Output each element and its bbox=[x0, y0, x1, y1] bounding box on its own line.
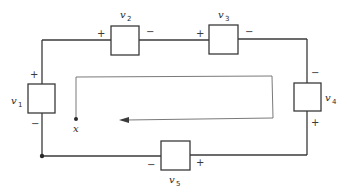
v3-label-sub: 3 bbox=[225, 15, 229, 23]
v5-label-sub: 5 bbox=[176, 180, 180, 188]
arrow-left-icon bbox=[119, 117, 129, 123]
element-box-v1 bbox=[28, 84, 55, 113]
outer-loop-wires bbox=[40, 39, 307, 158]
v4-label-sub: 4 bbox=[332, 98, 337, 106]
traversal-path: x bbox=[73, 76, 273, 134]
element-v2: + − v 2 bbox=[97, 9, 154, 55]
v2-minus-sign: − bbox=[146, 26, 154, 37]
v1-label: v bbox=[11, 95, 17, 106]
v3-minus-sign: − bbox=[245, 26, 253, 37]
v5-label: v bbox=[169, 174, 175, 185]
element-v1: + − v 1 bbox=[11, 69, 55, 129]
v5-plus-sign: + bbox=[196, 157, 204, 168]
element-v4: − + v 4 bbox=[294, 67, 337, 128]
v1-plus-sign: + bbox=[30, 69, 38, 80]
v4-plus-sign: + bbox=[311, 117, 319, 128]
v4-minus-sign: − bbox=[311, 67, 319, 78]
v1-label-sub: 1 bbox=[18, 101, 22, 109]
v1-minus-sign: − bbox=[31, 118, 39, 129]
v2-label-sub: 2 bbox=[127, 15, 131, 23]
element-box-v5 bbox=[161, 141, 190, 170]
element-box-v3 bbox=[209, 25, 238, 54]
v4-label: v bbox=[325, 92, 331, 103]
traversal-path-line bbox=[76, 76, 273, 120]
element-v5: − + v 5 bbox=[147, 141, 204, 188]
element-box-v2 bbox=[111, 26, 139, 55]
v3-label: v bbox=[218, 9, 224, 20]
element-v3: + − v 3 bbox=[196, 9, 253, 54]
v2-plus-sign: + bbox=[97, 28, 105, 39]
v5-minus-sign: − bbox=[147, 159, 155, 170]
circuit-diagram: + − v 1 + − v 2 + − v 3 − + v 4 − + v 5 bbox=[0, 0, 347, 194]
node-dot bbox=[40, 154, 44, 158]
start-node-dot bbox=[74, 117, 78, 121]
v2-label: v bbox=[120, 9, 126, 20]
element-box-v4 bbox=[294, 83, 321, 111]
v3-plus-sign: + bbox=[196, 28, 204, 39]
start-node-label: x bbox=[73, 123, 79, 134]
